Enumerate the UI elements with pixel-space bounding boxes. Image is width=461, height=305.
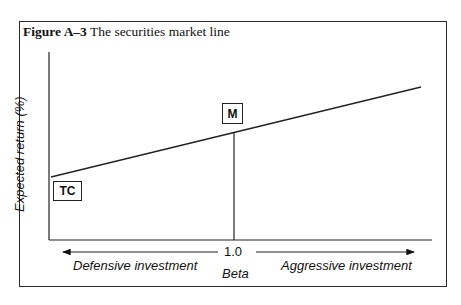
x-tick-1-0: 1.0 (224, 244, 242, 259)
tc-point-label: TC (53, 181, 82, 201)
securities-market-line (51, 87, 421, 177)
market-point-label: M (222, 103, 243, 124)
y-axis-label: Expected return (%) (12, 96, 27, 212)
defensive-investment-label: Defensive investment (73, 258, 197, 273)
x-axis-label: Beta (222, 266, 249, 281)
aggressive-investment-label: Aggressive investment (281, 258, 412, 273)
